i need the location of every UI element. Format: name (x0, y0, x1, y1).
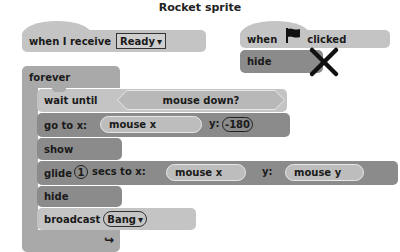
mouse-down-condition[interactable]: mouse down? (118, 91, 284, 109)
go-to-y-label: y: (209, 118, 220, 129)
glide-secs-to-x-label: secs to x: (92, 166, 146, 177)
broadcast-label: broadcast (44, 214, 100, 225)
show-label: show (44, 144, 73, 155)
go-to-y-value: -180 (225, 119, 250, 130)
dropdown-arrow-icon: ▾ (157, 36, 162, 47)
forever-arm (22, 86, 38, 236)
go-to-y-input[interactable]: -180 (222, 117, 253, 132)
sprite-title: Rocket sprite (0, 1, 400, 14)
glide-label: glide (44, 168, 72, 179)
show-block[interactable]: show (37, 138, 122, 160)
glide-y-label: y: (262, 166, 273, 177)
glide-x-value: mouse x (175, 167, 222, 178)
broadcast-block[interactable]: broadcast Bang ▾ (37, 208, 196, 230)
dropdown-arrow-icon: ▾ (138, 214, 143, 225)
glide-y-value: mouse y (294, 167, 341, 178)
clicked-label: clicked (307, 34, 346, 45)
forever-footer: ↪ (22, 230, 120, 252)
glide-secs-input[interactable]: 1 (74, 165, 88, 179)
forever-label: forever (29, 72, 70, 83)
hide-label: hide (247, 56, 272, 67)
when-i-receive-hat-block[interactable]: when I receive Ready ▾ (22, 30, 206, 52)
wait-until-label: wait until (44, 95, 98, 106)
broadcast-message-dropdown[interactable]: Bang ▾ (103, 211, 147, 227)
go-to-label: go to x: (44, 120, 87, 131)
hide-block[interactable]: hide (37, 186, 122, 207)
loop-arrow-icon: ↪ (104, 233, 114, 247)
glide-y-input[interactable]: mouse y (285, 164, 364, 181)
go-to-x-value: mouse x (109, 119, 156, 130)
message-dropdown-value: Ready (120, 36, 155, 47)
hide-label: hide (44, 191, 69, 202)
message-dropdown[interactable]: Ready ▾ (116, 33, 166, 49)
broadcast-message-value: Bang (107, 214, 136, 225)
glide-x-input[interactable]: mouse x (166, 164, 246, 181)
connector-notch (52, 88, 66, 92)
green-flag-icon (285, 27, 301, 43)
when-i-receive-label: when I receive (29, 36, 111, 47)
go-to-x-input[interactable]: mouse x (100, 116, 202, 133)
condition-label: mouse down? (163, 95, 240, 106)
glide-secs-value: 1 (78, 167, 85, 178)
forever-header[interactable]: forever (22, 66, 120, 88)
when-label: when (247, 34, 277, 45)
cross-out-icon (308, 46, 340, 78)
